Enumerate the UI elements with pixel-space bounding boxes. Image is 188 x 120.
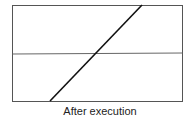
diagram-caption: After execution — [0, 104, 188, 118]
diagram — [0, 0, 188, 120]
horizontal-axis-line — [13, 53, 183, 54]
